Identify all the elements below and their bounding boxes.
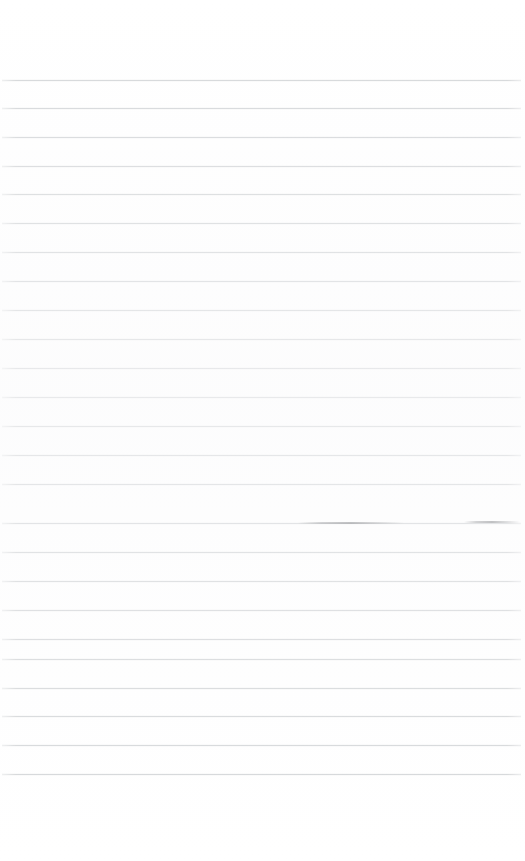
ruled-line <box>2 166 521 167</box>
pencil-stroke-center-mark <box>298 522 404 524</box>
ruled-line <box>2 80 521 81</box>
ruled-line <box>2 426 521 427</box>
ruled-line <box>2 339 521 340</box>
ruled-line <box>2 523 521 524</box>
ruled-line <box>2 252 521 253</box>
ruled-line <box>2 552 521 553</box>
ruled-line <box>2 455 521 456</box>
ruled-line <box>2 610 521 611</box>
ruled-line <box>2 108 521 109</box>
ruled-line-area <box>0 0 525 861</box>
ruled-line <box>2 774 521 775</box>
ruled-line <box>2 639 521 640</box>
ruled-line <box>2 368 521 369</box>
pencil-stroke-right-mark <box>464 521 520 523</box>
ruled-line <box>2 223 521 224</box>
ruled-line <box>2 281 521 282</box>
ruled-line <box>2 194 521 195</box>
ruled-line <box>2 397 521 398</box>
ruled-line <box>2 659 521 660</box>
ruled-line <box>2 716 521 717</box>
ruled-line <box>2 581 521 582</box>
ruled-line <box>2 688 521 689</box>
ruled-line <box>2 484 521 485</box>
ruled-line <box>2 310 521 311</box>
scanned-page <box>0 0 525 861</box>
ruled-line <box>2 745 521 746</box>
ruled-line <box>2 137 521 138</box>
